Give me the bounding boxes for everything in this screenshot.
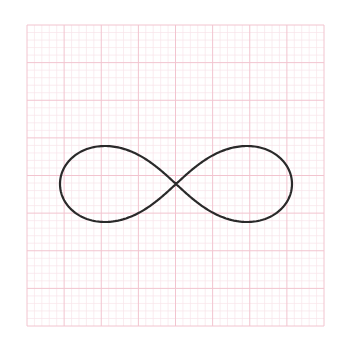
graph-paper-figure: [0, 0, 352, 358]
